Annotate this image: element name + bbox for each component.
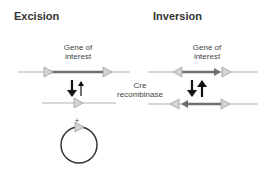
reverse-arrow-head [78, 81, 84, 86]
loxp-site-triangle [103, 67, 112, 77]
loxp-site-triangle [75, 122, 84, 132]
inversion-reaction-arrows [187, 80, 207, 97]
loxp-site-triangle [221, 99, 230, 109]
excision-reaction-arrows [67, 80, 84, 97]
loxp-site-triangle [222, 67, 231, 77]
gene-direction-arrowhead [214, 68, 221, 76]
reverse-arrow-head [197, 80, 207, 87]
forward-arrow-head [187, 90, 197, 97]
loxp-site-triangle-reversed [173, 67, 182, 77]
loxp-site-triangle [74, 98, 83, 108]
inverted-gene-arrowhead [181, 100, 188, 108]
loxp-site-triangle-reversed [170, 99, 179, 109]
loxp-site-triangle [44, 67, 53, 77]
forward-arrow-head [67, 90, 77, 97]
excised-circular-dna [61, 127, 97, 163]
recombination-diagram: + [0, 0, 268, 174]
